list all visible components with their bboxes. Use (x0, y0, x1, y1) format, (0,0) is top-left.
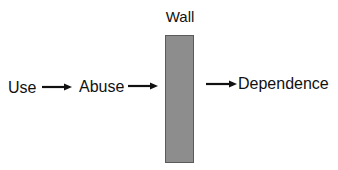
node-abuse: Abuse (79, 78, 124, 96)
arrow-abuse-to-wall-icon (128, 82, 158, 90)
node-use: Use (8, 79, 36, 97)
wall-block (165, 35, 194, 163)
wall-label: Wall (164, 8, 196, 25)
arrow-use-to-abuse-icon (42, 83, 72, 91)
arrow-wall-to-dependence-icon (206, 80, 237, 88)
node-dependence: Dependence (238, 75, 329, 93)
